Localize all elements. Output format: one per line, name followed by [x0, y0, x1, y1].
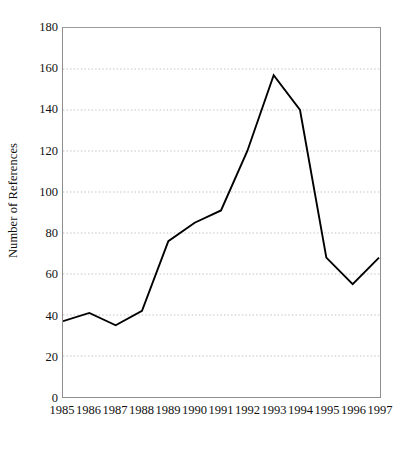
gridlines [63, 69, 380, 356]
plot-canvas [63, 28, 380, 397]
line-chart: Number of References 0204060801001201401… [0, 0, 406, 449]
y-axis-title: Number of References [0, 0, 28, 400]
y-axis-tick-label: 80 [46, 227, 59, 240]
x-axis-tick-label: 1988 [129, 404, 154, 417]
x-axis-tick-label: 1994 [288, 404, 313, 417]
x-axis-tick-label: 1987 [103, 404, 128, 417]
x-axis-tick-label: 1997 [368, 404, 393, 417]
x-axis-tick-label: 1990 [182, 404, 207, 417]
x-axis-tick-label: 1986 [76, 404, 101, 417]
x-axis-tick-label: 1992 [235, 404, 260, 417]
x-axis-tick-label: 1991 [209, 404, 234, 417]
y-axis-tick-label: 120 [39, 144, 58, 157]
y-axis-tick-labels: 020406080100120140160180 [26, 0, 58, 449]
y-axis-tick-label: 100 [39, 186, 58, 199]
x-axis-tick-label: 1996 [341, 404, 366, 417]
y-axis-tick-label: 60 [46, 268, 59, 281]
y-axis-tick-label: 140 [39, 103, 58, 116]
x-axis-tick-labels: 1985198619871988198919901991199219931994… [62, 404, 381, 428]
x-axis-tick-label: 1989 [156, 404, 181, 417]
x-axis-tick-label: 1995 [315, 404, 340, 417]
y-axis-tick-label: 40 [46, 309, 59, 322]
y-axis-tick-label: 160 [39, 62, 58, 75]
y-axis-tick-label: 180 [39, 21, 58, 34]
x-axis-tick-label: 1993 [262, 404, 287, 417]
y-axis-tick-label: 20 [46, 351, 59, 364]
y-axis-title-label: Number of References [7, 142, 22, 257]
data-series-line [63, 75, 379, 325]
x-axis-tick-label: 1985 [50, 404, 75, 417]
plot-area [62, 27, 381, 398]
